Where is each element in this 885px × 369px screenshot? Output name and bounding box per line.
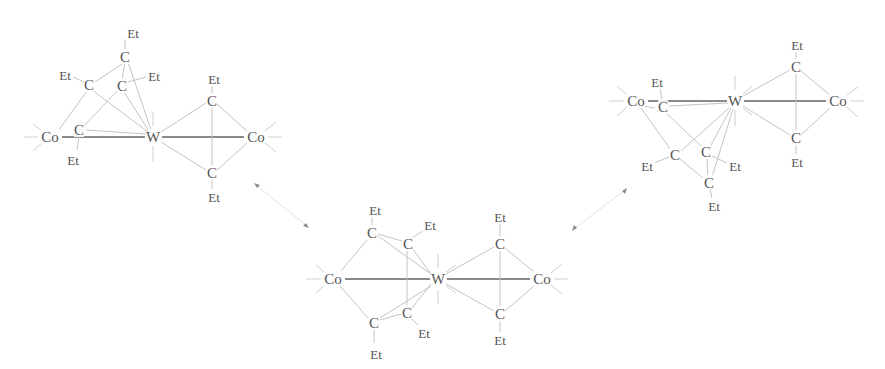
atom-label-cobalt: Co	[247, 129, 265, 145]
atom-label-carbon: C	[369, 315, 379, 331]
atom-label-carbon: C	[84, 77, 94, 93]
atom-label-carbon: C	[658, 99, 668, 115]
atom-label-cobalt: Co	[533, 271, 551, 287]
atom-label-carbon: C	[403, 236, 413, 252]
atom-label-ethyl: Et	[791, 38, 803, 53]
atom-label-tungsten: W	[146, 129, 161, 145]
atom-label-tungsten: W	[728, 93, 743, 109]
atom-label-ethyl: Et	[494, 210, 506, 225]
atom-label-ethyl: Et	[148, 69, 160, 84]
atom-label-ethyl: Et	[729, 159, 741, 174]
atom-label-ethyl: Et	[208, 190, 220, 205]
atom-label-carbon: C	[207, 165, 217, 181]
atom-label-ethyl: Et	[208, 72, 220, 87]
atom-label-cobalt: Co	[627, 93, 645, 109]
arrowhead-icon	[572, 225, 577, 231]
atom-label-ethyl: Et	[641, 159, 653, 174]
atom-label-ethyl: Et	[791, 155, 803, 170]
atom-label-carbon: C	[402, 305, 412, 321]
atom-label-carbon: C	[117, 78, 127, 94]
atom-label-carbon: C	[207, 93, 217, 109]
atom-label-ethyl: Et	[651, 75, 663, 90]
equilibrium-arrow-left	[254, 183, 309, 228]
atom-label-carbon: C	[74, 122, 84, 138]
reaction-diagram: CoWCoCEtCEtCEtCEtCEtCEtCoWCoCEtCEtCEtCEt…	[0, 0, 885, 369]
atom-label-ethyl: Et	[708, 199, 720, 214]
atom-label-ethyl: Et	[67, 153, 79, 168]
atom-label-carbon: C	[791, 130, 801, 146]
diagram-svg: CoWCoCEtCEtCEtCEtCEtCEtCoWCoCEtCEtCEtCEt…	[0, 0, 885, 369]
atom-label-ethyl: Et	[418, 326, 430, 341]
atom-label-carbon: C	[495, 306, 505, 322]
atom-label-ethyl: Et	[424, 218, 436, 233]
atom-label-carbon: C	[701, 144, 711, 160]
atom-label-tungsten: W	[431, 271, 446, 287]
atom-labels: CoWCoCEtCEtCEtCEtCEtCEtCoWCoCEtCEtCEtCEt…	[41, 25, 847, 362]
left-structure	[24, 39, 282, 189]
right-structure	[609, 51, 864, 198]
atom-label-carbon: C	[120, 49, 130, 65]
equilibrium-arrow-right	[572, 188, 627, 231]
atom-label-carbon: C	[367, 225, 377, 241]
atom-label-cobalt: Co	[829, 93, 847, 109]
atom-label-ethyl: Et	[370, 347, 382, 362]
arrowhead-icon	[622, 188, 627, 194]
atom-label-ethyl: Et	[59, 68, 71, 83]
atom-label-cobalt: Co	[41, 129, 59, 145]
atom-label-carbon: C	[791, 59, 801, 75]
atom-label-ethyl: Et	[127, 26, 139, 41]
atom-label-carbon: C	[495, 236, 505, 252]
atom-label-ethyl: Et	[369, 203, 381, 218]
atom-label-ethyl: Et	[494, 333, 506, 348]
atom-label-cobalt: Co	[324, 271, 342, 287]
atom-label-carbon: C	[704, 175, 714, 191]
atom-label-carbon: C	[670, 147, 680, 163]
